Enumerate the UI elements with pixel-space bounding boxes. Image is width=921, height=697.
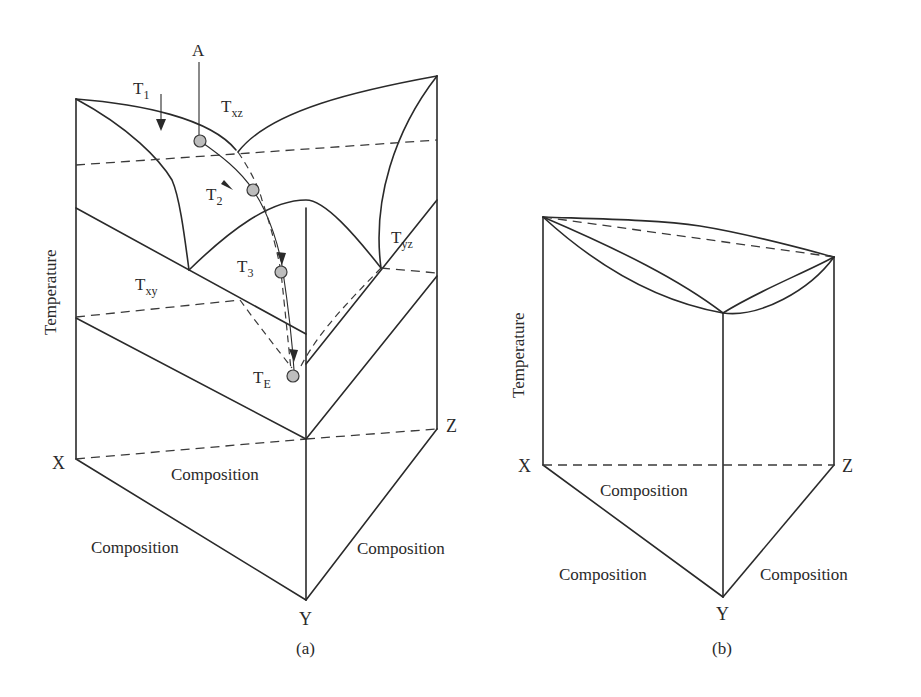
corner-label-x-a: X bbox=[52, 453, 65, 473]
axis-label-temperature-b: Temperature bbox=[509, 312, 528, 398]
xy-lens-upper-b bbox=[543, 217, 723, 313]
composition-label-right-a: Composition bbox=[357, 539, 445, 558]
composition-label-back-a: Composition bbox=[171, 465, 259, 484]
xy-face-lower-line bbox=[76, 318, 306, 439]
composition-label-left-a: Composition bbox=[91, 538, 179, 557]
corner-label-y-b: Y bbox=[716, 604, 729, 624]
label-txy: Txy bbox=[135, 275, 157, 298]
liquidus-top-curve-x bbox=[76, 99, 236, 150]
valley-yz-projection bbox=[300, 268, 381, 368]
base-edge-x-z-hidden bbox=[76, 439, 306, 459]
composition-label-right-b: Composition bbox=[760, 565, 848, 584]
composition-label-left-b: Composition bbox=[559, 565, 647, 584]
point-start-on-liquidus bbox=[194, 135, 206, 147]
yz-face-lower-line bbox=[306, 276, 437, 439]
t1-arrow-icon bbox=[156, 119, 166, 131]
valley-xy-projection bbox=[240, 300, 292, 368]
point-te-eutectic bbox=[287, 370, 299, 382]
caption-a: (a) bbox=[296, 639, 315, 658]
corner-label-z-b: Z bbox=[842, 456, 853, 476]
liquidus-top-curve-z bbox=[238, 76, 437, 152]
corner-label-y-a: Y bbox=[299, 609, 312, 629]
yz-face-eutectic-line bbox=[306, 200, 437, 364]
isotherm-yz-face bbox=[381, 268, 437, 273]
caption-b: (b) bbox=[712, 639, 732, 658]
label-txz: Txz bbox=[221, 97, 243, 120]
label-t1: T1 bbox=[133, 79, 149, 102]
base-edge-x-z-hidden-2 bbox=[306, 429, 437, 439]
panel-a-eutectic-prism: A T1 Txz T2 T3 Txy Tyz TE Temperature X … bbox=[41, 41, 457, 658]
corner-label-x-b: X bbox=[518, 456, 531, 476]
base-edge-y-z bbox=[306, 429, 437, 600]
panel-b-isomorphous-prism: Temperature X Z Y Composition Compositio… bbox=[509, 217, 853, 658]
corner-label-z-a: Z bbox=[446, 416, 457, 436]
label-tyz: Tyz bbox=[391, 228, 413, 251]
yz-lens-upper-b bbox=[723, 257, 834, 313]
isotherm-xy-face bbox=[76, 300, 240, 317]
isotherm-upper bbox=[76, 140, 437, 165]
ternary-phase-diagram-figure: A T1 Txz T2 T3 Txy Tyz TE Temperature X … bbox=[0, 0, 921, 697]
point-t2 bbox=[247, 184, 259, 196]
label-te: TE bbox=[253, 368, 271, 391]
point-t3 bbox=[275, 266, 287, 278]
path-arrow-1-icon bbox=[221, 180, 233, 190]
label-t2: T2 bbox=[206, 185, 222, 208]
label-t3: T3 bbox=[237, 257, 253, 280]
label-a: A bbox=[192, 41, 205, 60]
liquidus-x-to-binary-xy bbox=[76, 99, 189, 270]
axis-label-temperature-a: Temperature bbox=[41, 249, 60, 335]
xy-lens-lower-b bbox=[543, 217, 723, 313]
composition-label-back-b: Composition bbox=[600, 481, 688, 500]
liquidus-y-dome bbox=[189, 200, 381, 270]
